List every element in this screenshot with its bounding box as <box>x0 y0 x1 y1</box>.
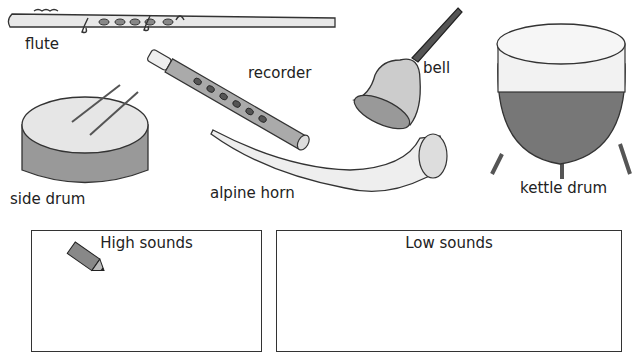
bell-icon <box>340 0 480 135</box>
high-sounds-box[interactable]: High sounds <box>31 230 262 352</box>
flute-label: flute <box>25 35 59 53</box>
low-sounds-title: Low sounds <box>277 234 621 252</box>
recorder-label: recorder <box>248 64 311 82</box>
side-drum-illustration: side drum <box>10 80 170 210</box>
side-drum-label: side drum <box>10 190 85 208</box>
bell-label: bell <box>423 59 450 77</box>
kettle-drum-label: kettle drum <box>520 179 607 197</box>
side-drum-icon <box>10 80 170 190</box>
low-sounds-box[interactable]: Low sounds <box>276 230 622 352</box>
kettle-drum-icon <box>490 14 635 184</box>
bell-illustration: bell <box>340 0 480 135</box>
alpine-horn-illustration: alpine horn <box>205 128 465 208</box>
pencil-icon <box>66 243 116 283</box>
kettle-drum-illustration: kettle drum <box>490 14 635 204</box>
flute-icon <box>0 0 340 40</box>
flute-illustration: flute <box>0 0 340 40</box>
alpine-horn-label: alpine horn <box>210 184 295 202</box>
